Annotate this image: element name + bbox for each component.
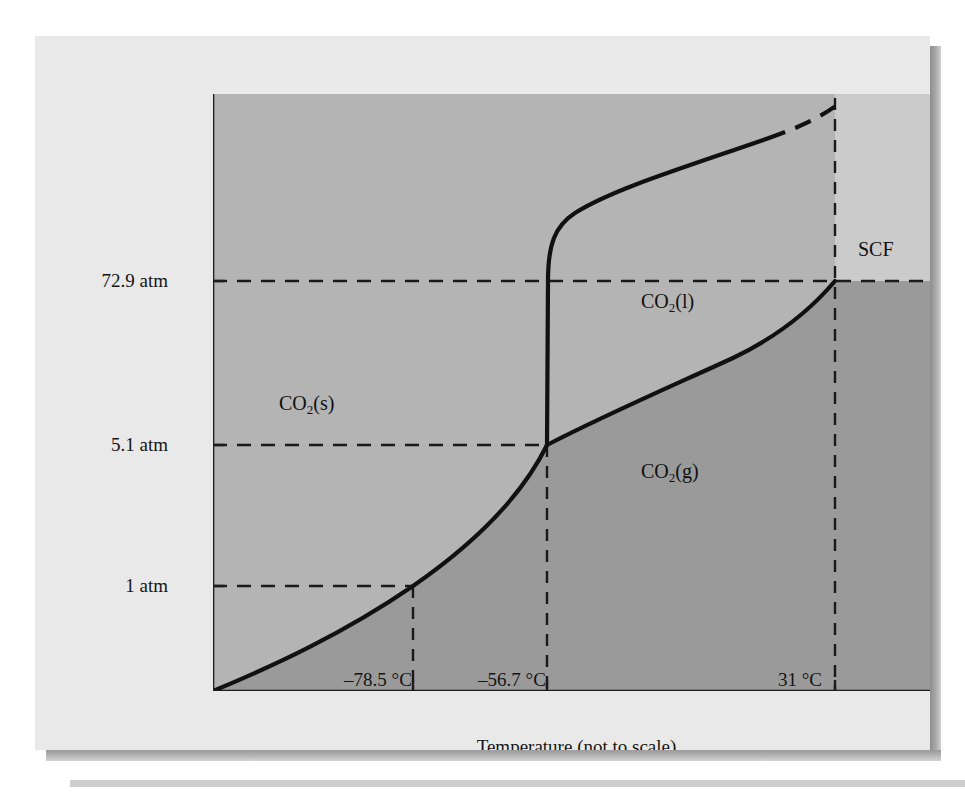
y-tick-label-critical-pressure: 72.9 atm	[35, 270, 168, 292]
card-drop-shadow-right	[930, 46, 941, 750]
phase-diagram-plot: CO2(s) CO2(l) CO2(g) SCF	[213, 94, 940, 691]
region-label-gas-text: CO	[641, 460, 669, 482]
region-label-supercritical: SCF	[858, 238, 894, 261]
region-label-solid-text: CO	[279, 392, 307, 414]
region-label-gas: CO2(g)	[641, 460, 699, 486]
region-label-solid: CO2(s)	[279, 392, 334, 418]
region-label-gas-state: (g)	[675, 460, 698, 482]
y-tick-label-standard-pressure: 1 atm	[35, 575, 168, 597]
region-label-liquid-text: CO	[641, 290, 669, 312]
region-label-liquid: CO2(l)	[641, 290, 694, 316]
x-tick-label-triple-temperature: –56.7 °C	[432, 669, 592, 691]
figure-card: CO2(s) CO2(l) CO2(g) SCF 72.9 atm 5.1 at…	[35, 36, 930, 750]
y-tick-label-triple-pressure: 5.1 atm	[35, 434, 168, 456]
x-tick-label-critical-temperature: 31 °C	[735, 669, 865, 691]
region-label-liquid-state: (l)	[675, 290, 694, 312]
card-drop-shadow-bottom	[46, 750, 941, 761]
region-label-solid-state: (s)	[313, 392, 334, 414]
card-bevel	[70, 780, 965, 787]
